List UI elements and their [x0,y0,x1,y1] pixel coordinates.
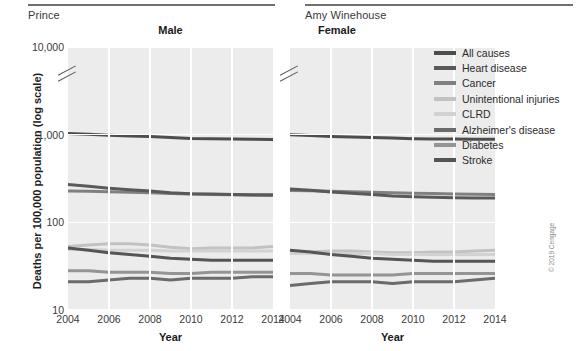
copyright-notice: © 2019 Cengage [548,223,555,272]
x-tick-label: 2012 [220,313,243,325]
legend-item[interactable]: Cancer [434,76,576,91]
legend-color-swatch [434,158,456,162]
plot-area-male [68,47,273,310]
x-tick-label: 2008 [360,313,383,325]
legend-item[interactable]: Unintentional injuries [434,91,576,106]
x-tick-label: 2014 [483,313,506,325]
x-axis-title-female: Year [290,331,495,343]
gridline-horizontal [68,134,273,136]
gridline-horizontal [68,222,273,224]
legend-color-swatch [434,66,456,70]
x-tick-label: 2004 [56,313,79,325]
y-tick-label: 1,000 [8,129,64,141]
figure-root: Prince Amy Winehouse Deaths per 100,000 … [0,0,580,351]
x-tick-label: 2004 [278,313,301,325]
series-line [68,271,273,274]
x-tick-label: 2006 [319,313,342,325]
series-layer-male [68,47,273,310]
legend-color-swatch [434,143,456,147]
panel-title-male: Male [68,24,273,36]
panel-title-female: Female [290,24,495,36]
legend-item-label: Cancer [462,77,496,89]
legend: All causesHeart diseaseCancerUnintention… [434,45,576,168]
legend-item-label: All causes [462,47,510,59]
series-line [290,274,495,275]
gridline-vertical [190,47,192,310]
legend-item[interactable]: Stroke [434,153,576,168]
gridline-vertical [108,47,110,310]
panel-male: Male 200420062008201020122014 Year [68,0,273,351]
x-axis-title-male: Year [68,331,273,343]
x-tick-label: 2012 [442,313,465,325]
gridline-vertical [231,47,233,310]
legend-color-swatch [434,81,456,85]
gridline-vertical [371,47,373,310]
legend-item-label: Diabetes [462,139,503,151]
series-line [68,185,273,195]
gridline-horizontal [68,309,273,311]
gridline-horizontal [68,46,273,48]
legend-item[interactable]: All causes [434,45,576,60]
legend-item[interactable]: Heart disease [434,60,576,75]
y-tick-label: 10,000 [8,41,64,53]
legend-item[interactable]: Alzheimer's disease [434,122,576,137]
gridline-horizontal [290,309,495,311]
legend-item-label: Unintentional injuries [462,93,559,105]
gridline-vertical [149,47,151,310]
y-axis-ticks: 10,0001,00010010 [6,0,64,351]
y-tick-label: 100 [8,216,64,228]
series-line [68,244,273,249]
gridline-horizontal [290,222,495,224]
x-tick-label: 2010 [401,313,424,325]
gridline-vertical [330,47,332,310]
legend-color-swatch [434,128,456,132]
x-tick-label: 2010 [179,313,202,325]
legend-item[interactable]: Diabetes [434,137,576,152]
x-tick-label: 2008 [138,313,161,325]
x-axis-ticks-female: 200420062008201020122014 [290,313,495,329]
legend-item[interactable]: CLRD [434,107,576,122]
series-line [290,278,495,285]
x-axis-ticks-male: 200420062008201020122014 [68,313,273,329]
legend-item-label: Alzheimer's disease [462,124,555,136]
legend-item-label: Stroke [462,154,492,166]
gridline-vertical [412,47,414,310]
series-line [68,277,273,282]
legend-color-swatch [434,97,456,101]
x-tick-label: 2006 [97,313,120,325]
legend-item-label: CLRD [462,108,491,120]
legend-color-swatch [434,112,456,116]
legend-item-label: Heart disease [462,62,527,74]
legend-color-swatch [434,51,456,55]
